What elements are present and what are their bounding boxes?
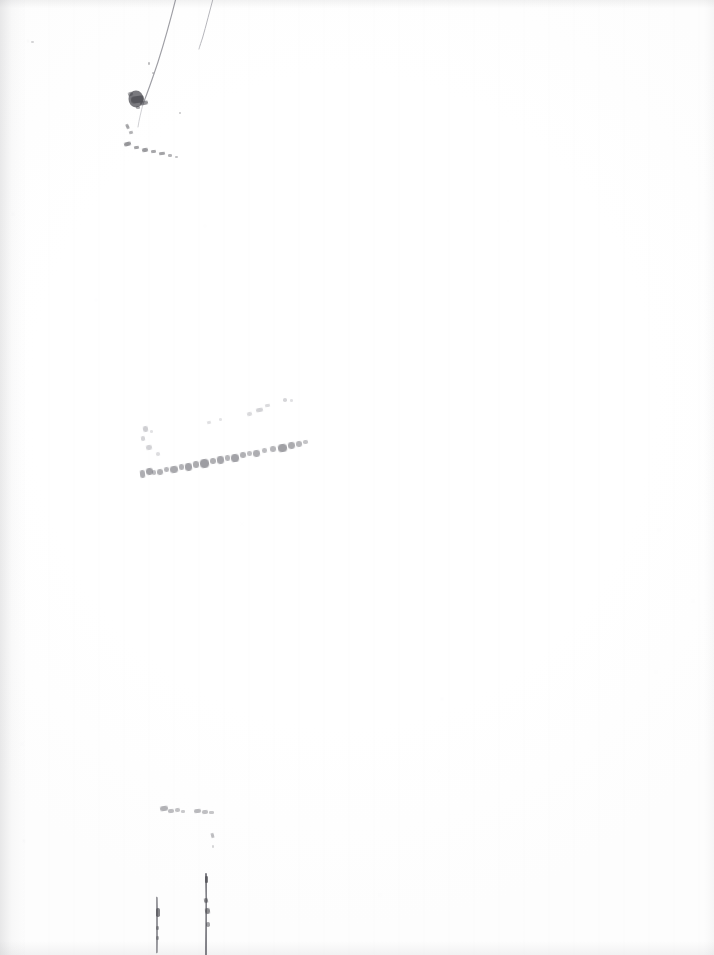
paper-background (0, 0, 714, 955)
scanned-page (0, 0, 714, 955)
